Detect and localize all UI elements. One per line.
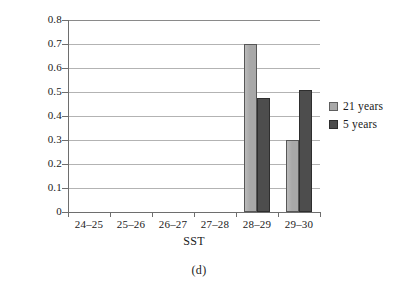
y-tick-label-0.5: 0.5 — [2, 86, 62, 97]
x-tick-mark-end — [320, 212, 321, 217]
gridline-0.2 — [68, 164, 320, 165]
y-tick-mark-0.6 — [62, 68, 68, 69]
gridline-0.6 — [68, 68, 320, 69]
figure-panel-d: 0.80.70.60.50.40.30.20.1024–2525–2626–27… — [0, 0, 398, 293]
x-tick-mark-1 — [110, 212, 111, 217]
x-tick-label-27–28: 27–28 — [194, 218, 236, 230]
y-axis-line — [68, 20, 69, 213]
y-tick-mark-0.4 — [62, 116, 68, 117]
legend-swatch-icon-5-years — [329, 120, 338, 129]
figure-caption: (d) — [0, 263, 398, 278]
x-tick-label-28–29: 28–29 — [236, 218, 278, 230]
gridline-0.1 — [68, 188, 320, 189]
x-tick-mark-4 — [236, 212, 237, 217]
x-tick-label-29–30: 29–30 — [278, 218, 320, 230]
y-tick-label-0.1: 0.1 — [2, 182, 62, 193]
bar-21-years-28–29 — [244, 44, 257, 212]
y-tick-mark-0.7 — [62, 44, 68, 45]
x-tick-mark-3 — [194, 212, 195, 217]
legend-label-21-years: 21 years — [343, 100, 383, 112]
y-tick-mark-0.1 — [62, 188, 68, 189]
x-tick-label-26–27: 26–27 — [152, 218, 194, 230]
bar-21-years-29–30 — [286, 140, 299, 212]
x-tick-mark-0 — [68, 212, 69, 217]
chart-legend: 21 years 5 years — [329, 97, 398, 133]
y-tick-label-0.6: 0.6 — [2, 62, 62, 73]
gridline-0.7 — [68, 44, 320, 45]
y-tick-mark-0.3 — [62, 140, 68, 141]
legend-item-5-years: 5 years — [329, 115, 398, 133]
y-tick-label-0.3: 0.3 — [2, 134, 62, 145]
legend-item-21-years: 21 years — [329, 97, 398, 115]
y-tick-label-0: 0 — [2, 206, 62, 217]
legend-swatch-icon-21-years — [329, 102, 338, 111]
x-tick-mark-5 — [278, 212, 279, 217]
y-tick-label-0.2: 0.2 — [2, 158, 62, 169]
y-tick-mark-0.5 — [62, 92, 68, 93]
gridline-0.4 — [68, 116, 320, 117]
y-tick-mark-0.8 — [62, 20, 68, 21]
bar-5-years-29–30 — [299, 90, 312, 212]
x-tick-label-25–26: 25–26 — [110, 218, 152, 230]
y-tick-mark-0.2 — [62, 164, 68, 165]
y-tick-label-0.8: 0.8 — [2, 14, 62, 25]
legend-label-5-years: 5 years — [343, 118, 377, 130]
y-tick-label-0.4: 0.4 — [2, 110, 62, 121]
gridline-0.5 — [68, 92, 320, 93]
x-tick-label-24–25: 24–25 — [68, 218, 110, 230]
gridline-0.3 — [68, 140, 320, 141]
y-tick-label-0.7: 0.7 — [2, 38, 62, 49]
x-axis-title: SST — [68, 234, 320, 249]
plot-area — [68, 20, 320, 212]
gridline-0.8 — [68, 20, 320, 21]
x-tick-mark-2 — [152, 212, 153, 217]
bar-5-years-28–29 — [257, 98, 270, 212]
